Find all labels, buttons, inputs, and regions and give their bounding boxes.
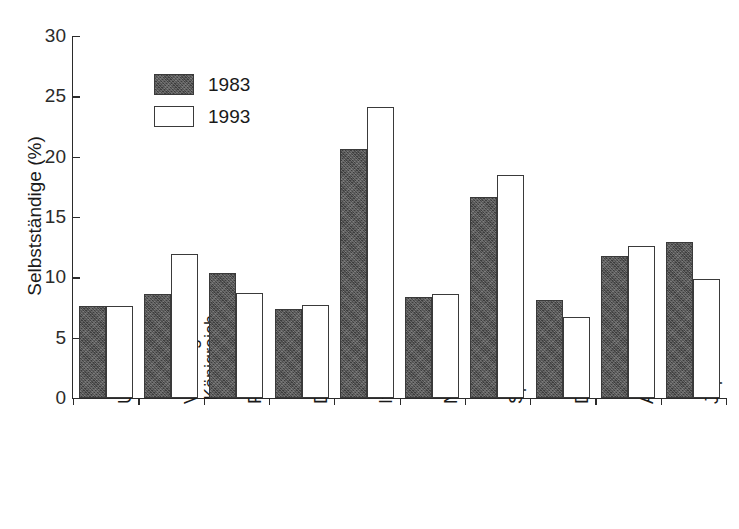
bar-usa-1983 (79, 306, 106, 398)
x-axis-tick-mark (334, 398, 335, 405)
legend-swatch-icon (154, 106, 194, 127)
bar-dänemark-1993 (563, 317, 590, 398)
y-axis-tick-label: 25 (32, 86, 66, 105)
legend-item-1993[interactable]: 1993 (154, 104, 274, 128)
x-axis-tick-mark (530, 398, 531, 405)
y-axis-tick-label: 5 (32, 328, 66, 347)
x-axis-tick-mark (138, 398, 139, 405)
y-axis-tick-label: 10 (32, 267, 66, 286)
bar-deutschland-1993 (302, 305, 329, 398)
y-axis-tick-label: 15 (32, 207, 66, 226)
legend-swatch-icon (154, 74, 194, 95)
bar-vereinigtes-königreich-1993 (171, 254, 198, 398)
y-axis-tick-label: 30 (32, 26, 66, 45)
bar-australien-1983 (601, 256, 628, 398)
y-axis-tick-mark (73, 157, 80, 158)
bar-italien-1993 (367, 107, 394, 398)
page-title (118, 0, 638, 3)
x-axis-tick-mark (465, 398, 466, 405)
x-axis-tick-mark (400, 398, 401, 405)
bar-spanien-1983 (470, 197, 497, 399)
legend-item-1983[interactable]: 1983 (154, 72, 274, 96)
bar-italien-1983 (340, 149, 367, 398)
bar-japan-1993 (693, 279, 720, 398)
bar-niederlande-1993 (432, 294, 459, 398)
x-axis-tick-mark (269, 398, 270, 405)
y-axis-tick-mark (73, 398, 80, 399)
bar-japan-1983 (666, 242, 693, 398)
bar-niederlande-1983 (405, 297, 432, 398)
y-axis-tick-mark (73, 277, 80, 278)
y-axis-tick-label: 0 (32, 388, 66, 407)
y-axis-tick-mark (73, 217, 80, 218)
bar-australien-1993 (628, 246, 655, 398)
bar-usa-1993 (106, 306, 133, 398)
chart-legend: 19831993 (154, 72, 274, 136)
x-axis-tick-mark (595, 398, 596, 405)
x-axis-tick-mark (726, 398, 727, 405)
x-axis-tick-mark (661, 398, 662, 405)
y-axis-tick-labels: 051015202530 (22, 0, 66, 529)
y-axis-tick-mark (73, 96, 80, 97)
chart-figure: Selbstständige (%) 051015202530 USAVerei… (0, 0, 739, 529)
bar-deutschland-1983 (275, 309, 302, 398)
y-axis-tick-label: 20 (32, 147, 66, 166)
bar-vereinigtes-königreich-1983 (144, 294, 171, 398)
y-axis-tick-mark (73, 36, 80, 37)
bar-dänemark-1983 (536, 300, 563, 398)
bar-spanien-1993 (497, 175, 524, 398)
bar-frankreich-1983 (209, 273, 236, 398)
bar-frankreich-1993 (236, 293, 263, 398)
legend-item-label: 1983 (208, 75, 250, 94)
legend-item-label: 1993 (208, 107, 250, 126)
